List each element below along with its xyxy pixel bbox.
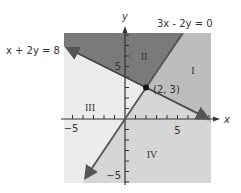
x-axis-arrow-icon — [213, 117, 220, 122]
regions — [64, 0, 241, 193]
y-tick-label-5: 5 — [115, 61, 121, 72]
x-tick-label-neg5: −5 — [64, 123, 79, 134]
region-ii-label: II — [141, 51, 148, 62]
line2-equation-label: 3x - 2y = 0 — [157, 18, 213, 29]
intersection-label: (2, 3) — [153, 84, 180, 95]
x-tick-label-5: 5 — [174, 125, 180, 136]
line1-equation-label: x + 2y = 8 — [6, 45, 60, 56]
region-iii-label: III — [85, 102, 95, 113]
x-axis-label: x — [223, 114, 230, 125]
region-iv-label: IV — [147, 149, 158, 160]
intersection-point — [143, 85, 149, 91]
y-tick-label-neg5: −5 — [106, 170, 121, 181]
linear-inequality-graph: y x −5 5 5 −5 x + 2y = 8 3x - 2y = 0 (2,… — [0, 0, 241, 193]
region-i-label: I — [191, 65, 194, 76]
y-axis-label: y — [121, 11, 129, 22]
y-axis-arrow-icon — [123, 26, 128, 33]
